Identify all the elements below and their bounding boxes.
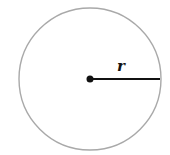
center-point xyxy=(87,76,94,83)
diagram-canvas xyxy=(0,0,170,155)
radius-label: r xyxy=(117,59,125,74)
circle-radius-diagram: r xyxy=(0,0,170,155)
